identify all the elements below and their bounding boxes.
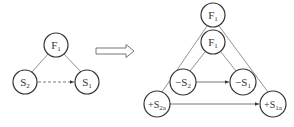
- node-s1: S1: [75, 70, 99, 94]
- node-s2: S2: [13, 70, 37, 94]
- right-diagram: F1 F1 −S2 −S1 +S2a +S1a: [144, 3, 286, 117]
- edge-f1-s1: [64, 54, 81, 72]
- hollow-right-arrow-icon: [96, 45, 134, 58]
- left-diagram: F1 S2 S1: [13, 33, 99, 94]
- node-pos-s2a: +S2a: [144, 91, 170, 117]
- node-neg-s2: −S2: [170, 69, 196, 95]
- node-f1-inner: F1: [201, 30, 225, 54]
- node-neg-s1: −S1: [230, 69, 256, 95]
- node-f1-outer: F1: [201, 3, 225, 27]
- edge-f1inner-negs1: [221, 52, 236, 71]
- diagram-canvas: F1 S2 S1 F1 F1 −S2: [0, 0, 294, 127]
- edge-f1-s2: [32, 54, 48, 72]
- node-f1: F1: [44, 33, 68, 57]
- edge-f1inner-negs2: [190, 52, 205, 71]
- node-pos-s1a: +S1a: [260, 91, 286, 117]
